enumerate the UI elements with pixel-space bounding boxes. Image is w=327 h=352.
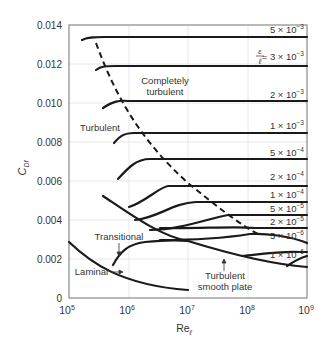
svg-text:0.004: 0.004 (37, 215, 62, 226)
y-axis-ticks: 0 0.002 0.004 0.006 0.008 0.010 0.012 0.… (37, 20, 62, 304)
svg-text:5 × 10−3: 5 × 10−3 (270, 23, 304, 35)
svg-text:= 3 × 10−3: = 3 × 10−3 (262, 50, 305, 62)
svg-text:106: 106 (119, 304, 135, 316)
svg-text:0.006: 0.006 (37, 176, 62, 187)
svg-text:0.012: 0.012 (37, 59, 62, 70)
svg-text:0.010: 0.010 (37, 98, 62, 109)
curve-2e-3 (103, 101, 307, 108)
curve-2e-5 (160, 227, 307, 228)
svg-text:ℓ: ℓ (258, 57, 262, 66)
svg-text:turbulent: turbulent (147, 86, 184, 97)
region-labels: Completely turbulent Turbulent Transitio… (75, 75, 252, 292)
curve-3e-3 (96, 66, 307, 70)
svg-text:1 × 10−3: 1 × 10−3 (270, 119, 304, 131)
svg-text:108: 108 (239, 304, 255, 316)
svg-text:107: 107 (179, 304, 195, 316)
svg-text:0: 0 (56, 293, 62, 304)
x-axis-ticks: 105 106 107 108 109 (59, 304, 314, 316)
roughness-labels: 5 × 10−3 = 3 × 10−3 2 × 10−3 1 × 10−3 5 … (262, 23, 305, 260)
svg-text:0.008: 0.008 (37, 137, 62, 148)
curve-5e-3 (82, 37, 307, 40)
svg-text:109: 109 (298, 304, 314, 316)
svg-text:Laminar: Laminar (75, 266, 109, 277)
y-axis-title: CDf (16, 159, 30, 175)
svg-text:Turbulent: Turbulent (205, 270, 245, 281)
svg-text:smooth plate: smooth plate (198, 281, 252, 292)
friction-drag-chart: 0 0.002 0.004 0.006 0.008 0.010 0.012 0.… (0, 0, 327, 352)
svg-text:105: 105 (59, 304, 75, 316)
svg-text:1 × 10−4: 1 × 10−4 (270, 188, 304, 200)
svg-text:0.014: 0.014 (37, 20, 62, 31)
x-axis-title: Reℓ (176, 322, 192, 336)
svg-text:Transitional: Transitional (95, 231, 144, 242)
svg-text:0.002: 0.002 (37, 254, 62, 265)
svg-text:2 × 10−4: 2 × 10−4 (270, 170, 304, 182)
svg-text:2 × 10−3: 2 × 10−3 (270, 88, 304, 100)
svg-text:ε: ε (258, 47, 262, 56)
svg-text:Completely: Completely (141, 75, 189, 86)
svg-text:5 × 10−5: 5 × 10−5 (270, 202, 304, 214)
svg-text:2 × 10−5: 2 × 10−5 (270, 215, 304, 227)
curve-transitional (113, 240, 188, 265)
svg-text:Turbulent: Turbulent (80, 122, 120, 133)
svg-text:5 × 10−4: 5 × 10−4 (270, 146, 304, 158)
